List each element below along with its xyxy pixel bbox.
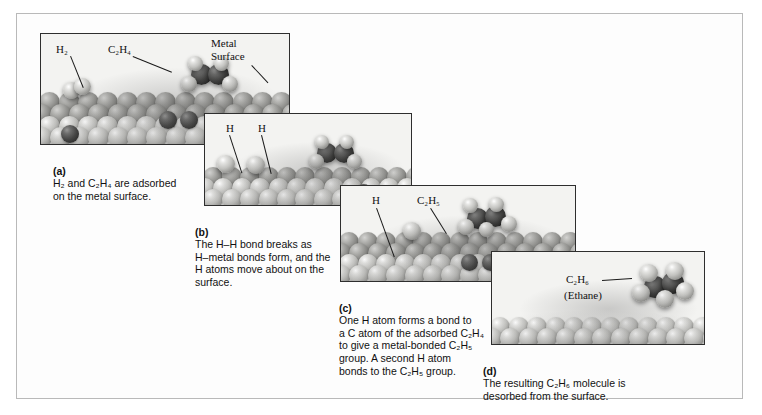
metal-atom-sphere xyxy=(295,189,315,205)
metal-atom-sphere xyxy=(314,189,334,205)
metal-atom-sphere xyxy=(519,328,539,344)
panel-d-caption: (d) The resulting C₂H₆ molecule is desor… xyxy=(483,352,688,402)
metal-atom-sphere xyxy=(656,290,674,308)
label-h-left: H xyxy=(226,122,234,135)
metal-atom-sphere xyxy=(458,219,474,235)
panel-c-caption-line3: to give a metal-bonded C₂H₅ xyxy=(339,339,472,351)
label-metal-surface-line2: Surface xyxy=(211,50,245,63)
panel-d-caption-line2: desorbed from the surface. xyxy=(483,390,608,402)
metal-atom-sphere xyxy=(166,127,187,144)
metal-atom-sphere xyxy=(386,265,406,281)
metal-atom-sphere xyxy=(640,264,658,282)
metal-atom-sphere xyxy=(108,127,129,144)
metal-atom-sphere xyxy=(340,135,354,149)
metal-atom-sphere xyxy=(347,154,362,169)
metal-atom-sphere xyxy=(684,328,704,344)
metal-atom-sphere xyxy=(368,265,388,281)
metal-atom-sphere xyxy=(309,154,324,169)
metal-atom-sphere xyxy=(574,328,594,344)
panel-b-caption-line2: H–metal bonds form, and the xyxy=(195,251,330,263)
panel-b-caption-line3: H atoms move about on the xyxy=(195,263,324,275)
panel-d-image: C₂H₆ (Ethane) xyxy=(491,251,705,345)
metal-atom-sphere xyxy=(666,328,686,344)
panel-d: C₂H₆ (Ethane) (d) The resulting C₂H₆ mol… xyxy=(491,251,705,345)
metal-atom-sphere xyxy=(489,197,504,212)
metal-atom-sphere xyxy=(479,222,494,237)
metal-atom-sphere xyxy=(611,328,631,344)
panel-c-caption-line2: a C atom of the adsorbed C₂H₄ xyxy=(339,327,484,339)
panel-c-caption-line4: group. A second H atom xyxy=(339,352,451,364)
metal-atom-sphere xyxy=(315,135,329,149)
label-c2h4: C₂H₄ xyxy=(108,43,131,56)
metal-atom-sphere xyxy=(537,328,557,344)
label-metal-surface: Metal Surface xyxy=(211,37,245,63)
carbon-atom-sphere xyxy=(159,111,177,129)
metal-atom-sphere xyxy=(217,155,235,173)
panel-c-caption-line5: bonds to the C₂H₅ group. xyxy=(339,365,456,377)
panel-b-tag: (b) xyxy=(195,226,208,238)
panel-b-caption-line4: surface. xyxy=(195,276,232,288)
panel-d-tag: (d) xyxy=(483,365,496,377)
panel-d-caption-line1: The resulting C₂H₆ molecule is xyxy=(483,377,626,389)
metal-atom-sphere xyxy=(403,222,421,240)
label-metal-surface-line1: Metal xyxy=(211,37,245,50)
metal-atom-sphere xyxy=(629,328,649,344)
carbon-atom-sphere xyxy=(180,111,198,129)
panel-a-caption-line2: on the metal surface. xyxy=(53,190,151,202)
metal-atom-sphere xyxy=(247,156,265,174)
metal-atom-sphere xyxy=(127,127,148,144)
metal-atom-sphere xyxy=(88,127,109,144)
metal-atom-sphere xyxy=(500,328,520,344)
metal-atom-sphere xyxy=(592,328,612,344)
metal-atom-sphere xyxy=(277,189,297,205)
metal-atom-sphere xyxy=(441,265,461,281)
metal-atom-sphere xyxy=(185,127,206,144)
metal-atom-sphere xyxy=(676,282,694,300)
panel-b-caption-line1: The H–H bond breaks as xyxy=(195,238,312,250)
label-h2: H₂ xyxy=(56,43,68,56)
metal-atom-sphere xyxy=(349,265,369,281)
carbon-atom-sphere xyxy=(61,125,79,143)
metal-atom-sphere xyxy=(666,262,684,280)
metal-atom-sphere xyxy=(463,198,478,213)
panel-a-tag: (a) xyxy=(53,165,66,177)
label-h-right: H xyxy=(258,122,266,135)
carbon-atom-sphere xyxy=(461,254,478,271)
metal-atom-sphere xyxy=(405,265,425,281)
metal-atom-sphere xyxy=(501,216,517,232)
label-c2h5: C₂H₅ xyxy=(417,194,440,207)
label-ethane: (Ethane) xyxy=(564,289,602,302)
label-c2h6: C₂H₆ xyxy=(566,273,589,286)
label-h: H xyxy=(372,194,380,207)
metal-atom-sphere xyxy=(556,328,576,344)
catalytic-hydrogenation-figure: H₂ C₂H₄ Metal Surface (a) H₂ and C₂H₄ ar… xyxy=(0,0,762,415)
metal-atom-sphere xyxy=(423,265,443,281)
metal-atom-sphere xyxy=(648,328,668,344)
metal-atom-sphere xyxy=(259,189,279,205)
metal-atom-sphere xyxy=(222,189,242,205)
metal-atom-sphere xyxy=(146,127,167,144)
panel-c-caption-line1: One H atom forms a bond to xyxy=(339,314,471,326)
metal-atom-sphere xyxy=(240,189,260,205)
panel-a-caption-line1: H₂ and C₂H₄ are adsorbed xyxy=(53,177,176,189)
panel-c-tag: (c) xyxy=(339,302,352,314)
metal-atom-sphere xyxy=(632,284,650,302)
